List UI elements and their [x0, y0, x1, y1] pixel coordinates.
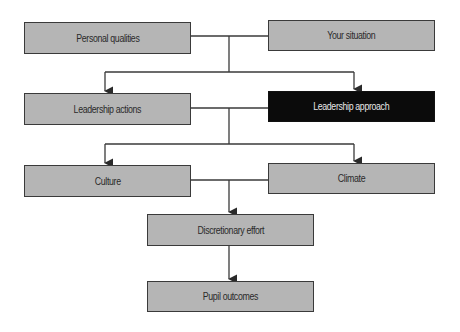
node-label: Culture — [95, 176, 121, 187]
node-pupil-outcomes: Pupil outcomes — [147, 281, 314, 312]
node-discretionary-effort: Discretionary effort — [147, 214, 314, 246]
node-label: Discretionary effort — [197, 225, 264, 236]
node-label: Leadership actions — [74, 104, 142, 115]
node-label: Leadership approach — [313, 101, 389, 112]
node-your-situation: Your situation — [268, 20, 435, 51]
node-label: Personal qualities — [76, 33, 139, 44]
node-culture: Culture — [24, 165, 191, 197]
node-label: Climate — [338, 173, 365, 184]
node-climate: Climate — [268, 163, 435, 194]
node-leadership-actions: Leadership actions — [24, 93, 191, 125]
node-personal-qualities: Personal qualities — [24, 22, 191, 54]
node-label: Your situation — [327, 30, 375, 41]
node-leadership-approach: Leadership approach — [268, 91, 435, 122]
node-label: Pupil outcomes — [203, 291, 258, 302]
